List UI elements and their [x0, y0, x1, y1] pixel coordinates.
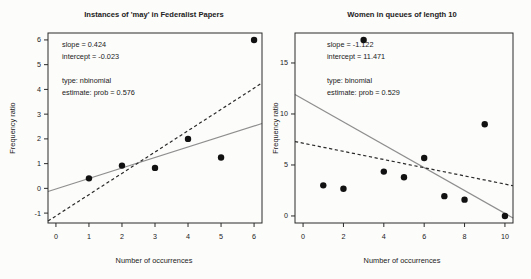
data-point [401, 174, 407, 180]
panel-title: Instances of 'may' in Federalist Papers [84, 10, 224, 19]
stats-annotation-line: intercept = -0.023 [62, 52, 119, 61]
data-point [320, 182, 326, 188]
data-point [482, 121, 488, 127]
y-axis-label: Frequency ratio [8, 102, 17, 153]
y-tick-label: 5 [284, 160, 288, 169]
stats-annotation-line: intercept = 11.471 [327, 52, 385, 61]
stats-annotation-line: type: binomial [327, 76, 372, 85]
panel-title: Women in queues of length 10 [347, 10, 457, 19]
weighted-fit-line [295, 94, 513, 218]
data-point [119, 162, 125, 168]
y-tick-label: 0 [37, 184, 41, 193]
x-tick-label: 2 [120, 232, 124, 241]
plot-area: 0246810051015slope = -1.122intercept = 1… [280, 33, 513, 241]
panel-women-queues: Women in queues of length 10 Number of o… [271, 10, 513, 265]
data-point [381, 168, 387, 174]
y-tick-label: 10 [280, 109, 288, 118]
x-tick-label: 5 [219, 232, 223, 241]
stats-annotation-line: estimate: prob = 0.529 [327, 88, 400, 97]
x-tick-label: 4 [382, 232, 386, 241]
stats-annotation-line: type: nbinomial [62, 76, 111, 85]
x-tick-label: 3 [153, 232, 157, 241]
data-point [421, 155, 427, 161]
x-tick-label: 0 [54, 232, 58, 241]
y-tick-label: 3 [37, 110, 41, 119]
x-tick-label: 10 [501, 232, 509, 241]
data-point [218, 154, 224, 160]
y-tick-label: 6 [37, 35, 41, 44]
y-tick-label: 15 [280, 58, 288, 67]
data-point [86, 175, 92, 181]
y-tick-label: 5 [37, 60, 41, 69]
data-point [251, 37, 257, 43]
x-tick-label: 6 [252, 232, 256, 241]
data-point [502, 213, 508, 219]
plot-box [48, 33, 262, 223]
y-tick-label: 0 [284, 211, 288, 220]
data-point [185, 136, 191, 142]
x-tick-label: 6 [422, 232, 426, 241]
x-tick-label: 1 [87, 232, 91, 241]
plot-box [295, 33, 513, 223]
figure-canvas: Instances of 'may' in Federalist Papers … [0, 0, 531, 279]
y-tick-label: -1 [35, 209, 41, 218]
data-point [461, 196, 467, 202]
x-axis-label: Number of occurrences [116, 256, 193, 265]
weighted-fit-line [48, 123, 262, 191]
y-tick-label: 4 [37, 85, 41, 94]
x-axis-label: Number of occurrences [364, 256, 441, 265]
y-axis-label: Frequency ratio [271, 102, 280, 153]
x-tick-label: 2 [341, 232, 345, 241]
x-tick-label: 8 [463, 232, 467, 241]
panel-federalist: Instances of 'may' in Federalist Papers … [8, 10, 262, 265]
ols-fit-line [48, 83, 262, 221]
plot-area: 0123456-10123456slope = 0.424intercept =… [35, 33, 262, 241]
data-point [441, 193, 447, 199]
x-tick-label: 0 [301, 232, 305, 241]
ord-plot-figure: Instances of 'may' in Federalist Papers … [0, 0, 531, 279]
x-tick-label: 4 [186, 232, 190, 241]
stats-annotation-line: estimate: prob = 0.576 [62, 88, 135, 97]
data-point [360, 37, 366, 43]
data-point [152, 165, 158, 171]
y-tick-label: 2 [37, 134, 41, 143]
y-tick-label: 1 [37, 159, 41, 168]
data-point [340, 186, 346, 192]
stats-annotation-line: slope = 0.424 [62, 40, 106, 49]
